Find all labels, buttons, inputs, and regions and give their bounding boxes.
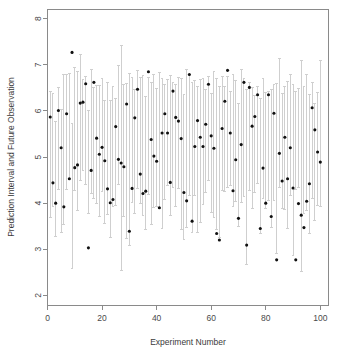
observation-point <box>264 202 267 205</box>
observation-point <box>114 125 117 128</box>
observation-point <box>133 116 136 119</box>
x-axis-label: Experiment Number <box>150 337 226 347</box>
observation-point <box>259 227 262 230</box>
observation-point <box>210 134 213 137</box>
observation-point <box>201 145 204 148</box>
x-tick-label: 60 <box>206 313 216 323</box>
observation-point <box>62 205 65 208</box>
x-tick-label: 40 <box>152 313 162 323</box>
observation-point <box>240 143 243 146</box>
x-tick-label: 100 <box>313 313 327 323</box>
observation-point <box>297 202 300 205</box>
y-tick-label: 8 <box>33 16 43 21</box>
observation-point <box>150 138 153 141</box>
observation-point <box>166 132 169 135</box>
observation-point <box>177 120 180 123</box>
observation-point <box>278 152 281 155</box>
observation-point <box>234 158 237 161</box>
observation-point <box>204 123 207 126</box>
observation-point <box>111 198 114 201</box>
observation-point <box>270 215 273 218</box>
observation-point <box>207 83 210 86</box>
observation-point <box>169 181 172 184</box>
observation-point <box>120 161 123 164</box>
y-tick-label: 4 <box>33 201 43 206</box>
plot-frame <box>48 10 329 306</box>
observation-point <box>76 163 79 166</box>
observation-point <box>136 88 139 91</box>
future-observation-points <box>49 51 322 262</box>
observation-point <box>73 166 76 169</box>
observation-point <box>253 115 256 118</box>
observation-point <box>60 146 63 149</box>
y-axis: 2345678 <box>33 16 48 298</box>
y-tick-label: 2 <box>33 293 43 298</box>
observation-point <box>71 51 74 54</box>
observation-point <box>300 214 303 217</box>
x-tick-label: 20 <box>97 313 107 323</box>
observation-point <box>313 128 316 131</box>
observation-point <box>57 109 60 112</box>
plot-border <box>48 10 329 306</box>
observation-point <box>106 187 109 190</box>
observation-point <box>245 244 248 247</box>
observation-point <box>199 136 202 139</box>
observation-point <box>158 206 161 209</box>
observation-point <box>147 70 150 73</box>
observation-point <box>188 73 191 76</box>
y-tick-label: 7 <box>33 62 43 67</box>
observation-point <box>316 150 319 153</box>
observation-point <box>103 159 106 162</box>
prediction-interval-bars <box>49 45 322 272</box>
observation-point <box>128 230 131 233</box>
observation-point <box>294 258 297 261</box>
observation-point <box>231 189 234 192</box>
observation-point <box>65 112 68 115</box>
observation-point <box>218 238 221 241</box>
observation-point <box>101 146 104 149</box>
observation-point <box>281 179 284 182</box>
observation-point <box>212 147 215 150</box>
observation-point <box>291 186 294 189</box>
observation-point <box>152 155 155 158</box>
observation-point <box>122 165 125 168</box>
observation-point <box>117 158 120 161</box>
observation-point <box>109 201 112 204</box>
observation-point <box>141 192 144 195</box>
observation-point <box>302 226 305 229</box>
observation-point <box>92 81 95 84</box>
observation-point <box>286 177 289 180</box>
x-tick-label: 0 <box>45 313 50 323</box>
observation-point <box>49 115 52 118</box>
observation-point <box>248 86 251 89</box>
observation-point <box>87 246 90 249</box>
observation-point <box>125 102 128 105</box>
observation-point <box>98 153 101 156</box>
observation-point <box>221 127 224 130</box>
observation-point <box>251 125 254 128</box>
observation-point <box>223 100 226 103</box>
observation-point <box>51 181 54 184</box>
observation-point <box>139 173 142 176</box>
observation-point <box>256 93 259 96</box>
y-tick-label: 6 <box>33 108 43 113</box>
y-tick-label: 3 <box>33 247 43 252</box>
observation-point <box>305 200 308 203</box>
observation-point <box>174 116 177 119</box>
y-axis-label: Prediction Interval and Future Observati… <box>6 77 16 237</box>
observation-point <box>261 167 264 170</box>
observation-point <box>267 93 270 96</box>
observation-point <box>171 90 174 93</box>
observation-point <box>163 112 166 115</box>
observation-point <box>311 106 314 109</box>
observation-point <box>79 102 82 105</box>
x-axis: 020406080100 <box>45 306 328 323</box>
observation-point <box>182 191 185 194</box>
observation-point <box>180 137 183 140</box>
observation-point <box>319 161 322 164</box>
observation-point <box>68 177 71 180</box>
observation-point <box>215 232 218 235</box>
observation-point <box>84 82 87 85</box>
observation-point <box>161 132 164 135</box>
y-tick-label: 5 <box>33 154 43 159</box>
